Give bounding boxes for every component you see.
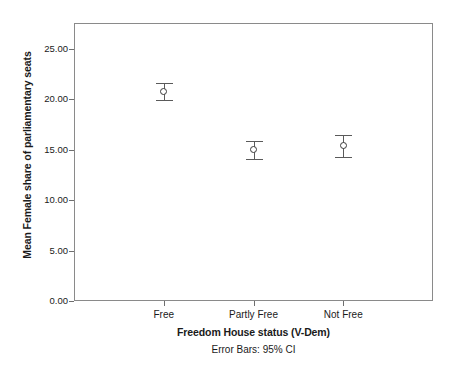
y-axis-tick-mark xyxy=(69,49,74,50)
error-bar-point xyxy=(164,0,165,371)
error-bar-point xyxy=(254,0,255,371)
error-bar-lower-cap xyxy=(246,159,263,160)
error-bar-upper-cap xyxy=(246,141,263,142)
y-axis-tick-mark xyxy=(69,99,74,100)
y-axis-title: Mean Female share of parliamentary seats xyxy=(18,10,36,300)
y-axis-tick-mark xyxy=(69,200,74,201)
error-bar-upper-cap xyxy=(335,135,352,136)
y-axis-tick-mark xyxy=(69,301,74,302)
chart-footnote: Error Bars: 95% CI xyxy=(74,343,433,356)
error-bar-lower-cap xyxy=(335,157,352,158)
error-bar-point xyxy=(343,0,344,371)
error-bar-upper-cap xyxy=(156,83,173,84)
error-bar-lower-cap xyxy=(156,100,173,101)
mean-marker xyxy=(340,142,347,149)
y-axis-tick-mark xyxy=(69,150,74,151)
x-axis-title: Freedom House status (V-Dem) xyxy=(74,326,433,339)
y-axis-tick-mark xyxy=(69,251,74,252)
error-bar-chart: 0.005.0010.0015.0020.0025.00 FreePartly … xyxy=(0,0,463,371)
